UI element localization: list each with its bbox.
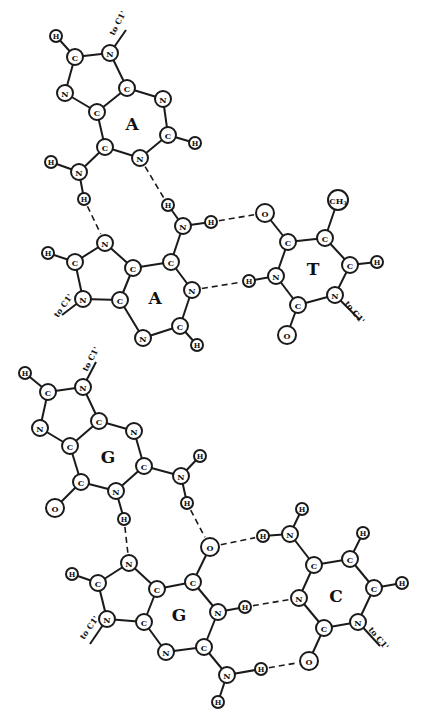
sugar-link-label: to C1' [80, 345, 101, 373]
atom-symbol: N [106, 49, 113, 59]
atom-symbol: C [285, 238, 291, 248]
base-label-g: G [172, 605, 187, 625]
hydrogen-bond [202, 282, 241, 288]
atom-o: O [256, 204, 274, 222]
atom-symbol: H [53, 32, 60, 41]
atom-symbol: C [201, 643, 207, 653]
base-label-t: T [307, 259, 320, 279]
atom-c: C [163, 254, 179, 270]
molecular-structure-svg: to C1'to C1'to C1'to C1'to C1'to C1' HCN… [0, 0, 428, 725]
atom-n: N [108, 483, 124, 499]
atom-c: C [89, 104, 105, 120]
atom-n: N [102, 45, 118, 61]
atom-symbol: H [374, 258, 381, 267]
atom-symbol: C [168, 258, 174, 268]
atom-n: N [184, 282, 200, 298]
atom-symbol: N [286, 530, 293, 540]
atom-n: N [32, 420, 48, 436]
atom-symbol: C [321, 624, 327, 634]
atom-symbol: N [354, 618, 361, 628]
hydrogen-bond [191, 510, 205, 537]
atom-symbol: C [190, 578, 196, 588]
atom-n: N [173, 468, 189, 484]
atom-symbol: C [371, 584, 377, 594]
atom-symbol: C [96, 417, 102, 427]
atom-symbol: H [215, 698, 222, 707]
atom-symbol: O [262, 209, 269, 219]
atom-symbol: N [136, 154, 143, 164]
atom-n: N [175, 218, 191, 234]
atom-c: C [342, 257, 358, 273]
atom-symbol: C [165, 131, 171, 141]
atom-symbol: C [102, 143, 108, 153]
atom-n: N [99, 611, 115, 627]
atom-h: H [50, 30, 62, 42]
atom-symbol: N [75, 168, 82, 178]
atom-symbol: N [162, 648, 169, 658]
base-label-a: A [124, 114, 139, 134]
atom-h: H [257, 530, 269, 542]
atom-n: N [155, 91, 171, 107]
atom-c: C [97, 139, 113, 155]
atom-c: C [67, 254, 83, 270]
atom-symbol: N [159, 95, 166, 105]
hydrogen-bond [125, 527, 128, 553]
base-label-g: G [101, 447, 116, 467]
atom-symbol: H [258, 665, 265, 674]
atom-c: C [160, 127, 176, 143]
atom-symbol: N [188, 286, 195, 296]
atom-c: C [136, 458, 152, 474]
atom-symbol: H [208, 218, 215, 227]
atom-symbol: C [311, 561, 317, 571]
atom-c: C [40, 384, 56, 400]
atom-c: C [317, 230, 333, 246]
atom-symbol: H [121, 515, 128, 524]
hydrogen-bond [253, 600, 289, 606]
atom-c: C [62, 438, 78, 454]
atom-n: N [268, 268, 284, 284]
atom-symbol: N [79, 383, 86, 393]
atom-symbol: C [322, 234, 328, 244]
atom-symbol: N [112, 487, 119, 497]
atom-h: H [189, 137, 201, 149]
atom-c: C [280, 234, 296, 250]
atom-n: N [350, 614, 366, 630]
atom-symbol: H [22, 369, 29, 378]
atom-symbol: C [72, 53, 78, 63]
atom-symbol: N [295, 594, 302, 604]
atom-h: H [296, 503, 308, 515]
atom-symbol: H [194, 341, 201, 350]
atom-c: C [185, 574, 201, 590]
atom-symbol: N [177, 472, 184, 482]
atom-symbol: C [78, 478, 84, 488]
atom-n: N [75, 379, 91, 395]
atom-symbol: O [52, 504, 59, 514]
atom-n: N [158, 644, 174, 660]
atom-h: H [205, 216, 217, 228]
atom-c: C [91, 413, 107, 429]
sugar-link-label: to C1' [366, 625, 391, 652]
atom-n: N [126, 423, 142, 439]
atom-symbol: O [284, 331, 291, 341]
atom-c: C [67, 49, 83, 65]
hydrogen-bond [145, 167, 164, 199]
base-label-a: A [147, 288, 162, 308]
atom-symbol: N [36, 424, 43, 434]
atom-c: C [136, 614, 152, 630]
atom-symbol: C [67, 442, 73, 452]
hydrogen-bond [219, 215, 254, 221]
atom-symbol: N [272, 272, 279, 282]
atom-symbol: N [61, 89, 68, 99]
atom-symbol: H [197, 452, 204, 461]
atom-h: H [243, 275, 255, 287]
atom-h: H [42, 247, 54, 259]
atom-symbol: C [130, 264, 136, 274]
atom-h: H [371, 256, 383, 268]
atom-symbol: C [295, 301, 301, 311]
atom-n: N [132, 150, 148, 166]
atom-h: H [45, 156, 57, 168]
atom-c: C [149, 581, 165, 597]
atom-o: O [278, 326, 296, 344]
atom-c: C [306, 557, 322, 573]
atom-symbol: N [214, 608, 221, 618]
